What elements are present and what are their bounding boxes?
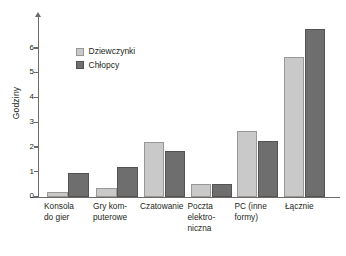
y-tick-mark (34, 97, 39, 98)
legend-label-chlopcy: Chłopcy (89, 61, 120, 70)
y-tick-label: 1 (10, 168, 34, 176)
y-tick-mark (34, 122, 39, 123)
y-tick-mark (34, 146, 39, 147)
legend-label-dziewczynki: Dziewczynki (89, 47, 136, 56)
y-axis-line (38, 16, 39, 197)
x-category-label: PC (inne formy) (235, 201, 267, 223)
bar-chlopcy (117, 167, 138, 197)
y-tick-mark (34, 72, 39, 73)
bar-chart: Godziny 0123456 Konsola do gierGry kom- … (0, 0, 346, 256)
x-category-label: Gry kom- puterowe (93, 201, 127, 223)
bar-dziewczynki (96, 188, 117, 197)
bar-chlopcy (165, 151, 186, 197)
legend-swatch-icon-chlopcy (76, 61, 84, 69)
y-tick-label: 3 (10, 118, 34, 126)
y-tick-label: 2 (10, 143, 34, 151)
y-tick-label: 4 (10, 93, 34, 101)
bar-dziewczynki (237, 131, 258, 197)
bar-dziewczynki (191, 184, 212, 196)
bar-chlopcy (68, 173, 89, 197)
y-tick-mark (34, 171, 39, 172)
x-category-label: Poczta elektro- niczna (188, 201, 216, 235)
x-category-label: Konsola do gier (44, 201, 74, 223)
bar-chlopcy (305, 29, 326, 196)
bar-dziewczynki (47, 192, 68, 196)
bar-dziewczynki (284, 57, 305, 197)
x-axis-line (30, 197, 340, 198)
legend-swatch-icon-dziewczynki (76, 48, 84, 56)
y-axis-arrow-icon (35, 12, 41, 17)
legend-item-dziewczynki: Dziewczynki (76, 46, 135, 58)
bar-chlopcy (258, 141, 279, 197)
y-tick-mark (34, 47, 39, 48)
legend: Dziewczynki Chłopcy (76, 46, 135, 73)
legend-item-chlopcy: Chłopcy (76, 60, 135, 72)
x-category-label: Czatowanie (140, 201, 183, 212)
x-category-label: Łącznie (285, 201, 314, 212)
bar-dziewczynki (144, 142, 165, 196)
y-tick-label: 5 (10, 68, 34, 76)
plot-area: Godziny 0123456 Konsola do gierGry kom- … (0, 0, 346, 256)
bar-chlopcy (212, 184, 233, 196)
y-tick-mark (34, 196, 39, 197)
y-tick-label: 6 (10, 44, 34, 52)
y-tick-label: 0 (10, 192, 34, 200)
